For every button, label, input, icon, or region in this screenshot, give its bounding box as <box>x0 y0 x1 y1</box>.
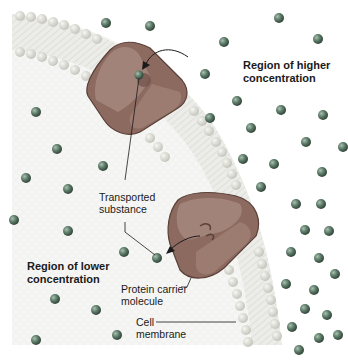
label-transported-line1: Transported <box>99 191 155 203</box>
label-higher-line2: concentration <box>243 72 330 85</box>
label-protein-line2: molecule <box>121 295 187 307</box>
label-lower-concentration: Region of lower concentration <box>27 260 110 286</box>
label-lower-line1: Region of lower <box>27 260 110 273</box>
label-higher-line1: Region of higher <box>243 59 330 72</box>
label-protein-carrier: Protein carrier molecule <box>121 283 187 307</box>
label-higher-concentration: Region of higher concentration <box>243 59 330 85</box>
label-protein-line1: Protein carrier <box>121 283 187 295</box>
label-cell-membrane: Cell membrane <box>136 316 186 340</box>
label-membrane-line1: Cell <box>136 316 186 328</box>
label-membrane-line2: membrane <box>136 328 186 340</box>
diagram-canvas: Region of higher concentration Region of… <box>0 0 348 361</box>
label-transported-substance: Transported substance <box>99 191 155 215</box>
label-transported-line2: substance <box>99 203 155 215</box>
label-lower-line2: concentration <box>27 273 110 286</box>
